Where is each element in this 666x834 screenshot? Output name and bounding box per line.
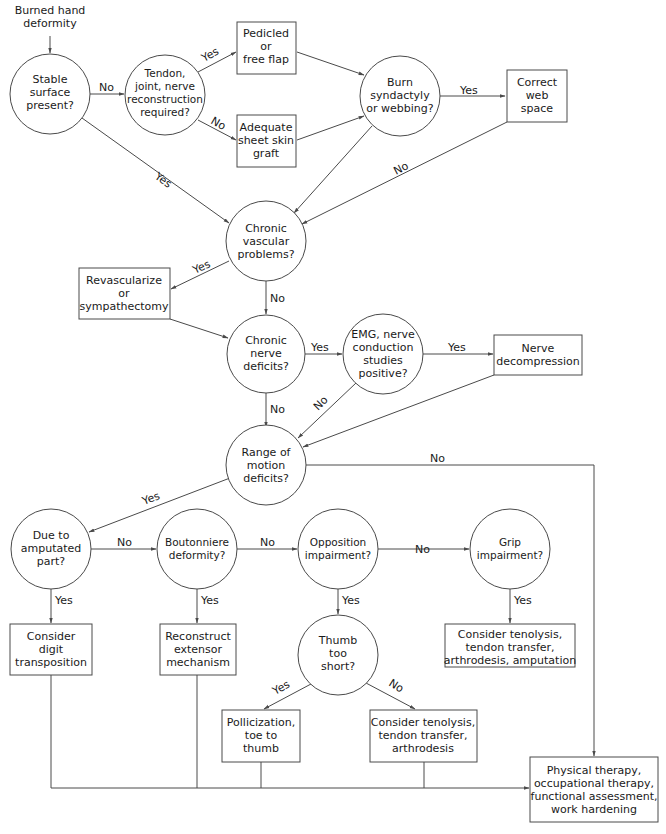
- decision-tendon-reconstruction: Tendon,joint, nervereconstructionrequire…: [125, 55, 205, 135]
- decision-thumb-short: Thumbtooshort?: [298, 615, 378, 695]
- label-vascular-yes: Yes: [190, 257, 213, 277]
- action-pedicled-flap: Pedicledorfree flap: [237, 22, 296, 74]
- label-amputated-yes: Yes: [54, 594, 73, 607]
- decision-chronic-nerve: Chronicnervedeficits?: [227, 315, 305, 393]
- label-nerve-yes: Yes: [310, 341, 329, 354]
- decision-grip: Gripimpairment?: [470, 509, 550, 589]
- svg-text:Range ofmotiondeficits?: Range ofmotiondeficits?: [242, 446, 292, 485]
- label-opposition-yes: Yes: [341, 594, 360, 607]
- svg-text:Boutonnieredeformity?: Boutonnieredeformity?: [165, 536, 229, 561]
- label-web-no: No: [391, 159, 410, 177]
- decision-chronic-vascular: Chronicvascularproblems?: [226, 201, 306, 281]
- svg-text:Burned handdeformity: Burned handdeformity: [15, 4, 86, 30]
- action-nerve-decompression: Nervedecompression: [494, 335, 582, 375]
- label-opposition-no: No: [415, 543, 430, 556]
- label-emg-yes: Yes: [447, 341, 466, 354]
- action-grip-treatment: Consider tenolysis,tendon transfer,arthr…: [444, 624, 576, 667]
- label-amputated-no: No: [117, 536, 132, 549]
- svg-text:Chronicvascularproblems?: Chronicvascularproblems?: [237, 222, 294, 261]
- edge-flap-to-burn: [297, 52, 364, 75]
- flowchart-canvas: No Yes Yes No Yes No Yes No Yes Yes No N…: [0, 0, 666, 834]
- flowchart-svg: No Yes Yes No Yes No Yes No Yes Yes No N…: [0, 0, 666, 834]
- decision-amputated-part: Due toamputatedpart?: [11, 509, 91, 589]
- label-tendon-no: No: [209, 114, 229, 133]
- label-burn-yes: Yes: [459, 84, 478, 97]
- edge-graft-to-burn: [297, 116, 364, 140]
- edge-emg-no: [298, 383, 356, 438]
- action-therapy: Physical therapy,occupational therapy,fu…: [530, 757, 658, 822]
- edge-burn-no: [294, 126, 372, 213]
- action-digit-transposition: Considerdigittransposition: [10, 624, 92, 675]
- label-rom-no: No: [430, 452, 445, 465]
- svg-text:Stablesurfacepresent?: Stablesurfacepresent?: [26, 73, 74, 112]
- svg-text:Reconstructextensormechanism: Reconstructextensormechanism: [165, 630, 231, 669]
- label-grip-yes: Yes: [513, 594, 532, 607]
- start-label-line: Burned hand: [15, 4, 86, 17]
- label-nerve-no: No: [270, 403, 285, 416]
- action-reconstruct-extensor: Reconstructextensormechanism: [160, 624, 236, 675]
- start-node: Burned handdeformity: [15, 4, 86, 30]
- decision-burn-syndactyly: Burnsyndactylyor webbing?: [360, 56, 440, 136]
- decision-range-of-motion: Range ofmotiondeficits?: [226, 425, 306, 505]
- action-thumb-treatment: Consider tenolysis,tendon transfer,arthr…: [370, 710, 477, 762]
- label-thumb-yes: Yes: [269, 678, 292, 698]
- start-label-line: deformity: [23, 17, 77, 30]
- label-stable-no: No: [99, 81, 114, 94]
- label-vascular-no: No: [270, 292, 285, 305]
- decision-opposition: Oppositionimpairment?: [298, 509, 378, 589]
- action-pollicization: Pollicization,toe tothumb: [222, 710, 300, 762]
- action-sheet-skin-graft: Adequatesheet skingraft: [237, 115, 296, 167]
- decision-emg-positive: EMG, nerveconductionstudiespositive?: [343, 314, 423, 394]
- edge-revasc-to-nerve: [170, 319, 228, 338]
- label-thumb-no: No: [386, 677, 406, 696]
- label-stable-yes: Yes: [151, 169, 174, 191]
- action-correct-web-space: Correctwebspace: [507, 70, 567, 122]
- svg-text:Oppositionimpairment?: Oppositionimpairment?: [305, 536, 371, 561]
- label-boutonniere-yes: Yes: [200, 594, 219, 607]
- decision-stable-surface: Stablesurfacepresent?: [10, 54, 90, 134]
- action-revascularize: Revascularizeorsympathectomy: [79, 268, 170, 319]
- decision-boutonniere: Boutonnieredeformity?: [157, 509, 237, 589]
- label-boutonniere-no: No: [260, 536, 275, 549]
